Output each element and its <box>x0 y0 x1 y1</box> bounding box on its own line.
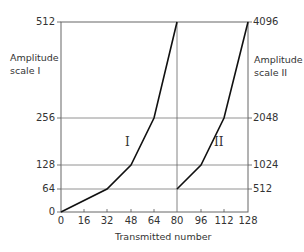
ytick-left-256: 256 <box>25 112 55 123</box>
ytick-left-64: 64 <box>25 183 55 194</box>
curve-label-I: I <box>125 137 130 148</box>
right-axis-label: Amplitude scale II <box>254 53 303 79</box>
ytick-right-2048: 2048 <box>253 112 278 123</box>
ytick-left-128: 128 <box>25 159 55 170</box>
xtick-80: 80 <box>165 215 189 226</box>
xtick-32: 32 <box>95 215 119 226</box>
xtick-64: 64 <box>142 215 166 226</box>
xtick-48: 48 <box>119 215 143 226</box>
xtick-96: 96 <box>189 215 213 226</box>
right-axis-label-line1: Amplitude <box>254 53 303 66</box>
xtick-0: 0 <box>49 215 73 226</box>
curve-I <box>61 22 177 212</box>
ytick-left-512: 512 <box>25 16 55 27</box>
right-axis-label-line2: scale II <box>254 66 303 79</box>
left-axis-label: Amplitude scale I <box>10 51 59 77</box>
x-axis-label: Transmitted number <box>115 231 211 242</box>
ytick-right-1024: 1024 <box>253 159 278 170</box>
xtick-16: 16 <box>72 215 96 226</box>
left-axis-label-line1: Amplitude <box>10 51 59 64</box>
left-axis-label-line2: scale I <box>10 64 59 77</box>
ytick-right-4096: 4096 <box>253 16 278 27</box>
xtick-128: 128 <box>236 215 260 226</box>
ytick-right-512: 512 <box>253 183 272 194</box>
xtick-112: 112 <box>212 215 236 226</box>
right-ticks <box>248 22 252 189</box>
curve-label-II: II <box>214 137 223 148</box>
curve-II <box>177 22 248 189</box>
